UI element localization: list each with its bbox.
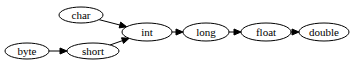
arrowhead-icon xyxy=(122,38,130,44)
node-label: long xyxy=(196,26,216,38)
node-label: double xyxy=(309,26,339,38)
type-conversion-graph: charbyteshortintlongfloatdouble xyxy=(0,0,350,69)
edge-long-to-float xyxy=(229,29,241,35)
node-label: int xyxy=(141,26,153,38)
edge-line xyxy=(99,20,120,25)
node-label: byte xyxy=(18,45,37,57)
edge-float-to-double xyxy=(291,29,299,35)
node-float: float xyxy=(241,23,291,41)
arrowhead-icon xyxy=(292,29,299,35)
arrowhead-icon xyxy=(60,48,67,54)
node-double: double xyxy=(299,23,349,41)
node-byte: byte xyxy=(5,43,49,59)
arrowhead-icon xyxy=(234,29,241,35)
edge-short-to-int xyxy=(110,38,129,45)
node-label: char xyxy=(72,9,91,21)
node-label: short xyxy=(82,45,104,57)
node-int: int xyxy=(122,23,172,41)
arrowhead-icon xyxy=(176,29,183,35)
node-char: char xyxy=(59,7,103,23)
edge-line xyxy=(110,41,122,45)
node-label: float xyxy=(256,26,276,38)
edge-int-to-long xyxy=(172,29,183,35)
edge-char-to-int xyxy=(99,20,127,28)
node-long: long xyxy=(183,23,229,41)
node-short: short xyxy=(67,43,119,59)
edge-byte-to-short xyxy=(49,48,67,54)
